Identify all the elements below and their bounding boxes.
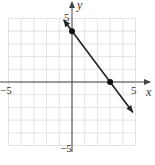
point-x-intercept bbox=[107, 79, 113, 85]
y-min-tick-label: −5 bbox=[60, 143, 72, 154]
x-axis-label: x bbox=[146, 86, 151, 98]
x-max-tick-label: 5 bbox=[131, 85, 137, 96]
coordinate-plane bbox=[0, 0, 155, 165]
y-axis-label: y bbox=[77, 0, 82, 11]
y-max-tick-label: 5 bbox=[64, 12, 70, 23]
y-axis-arrow-icon bbox=[69, 1, 75, 8]
x-min-tick-label: −5 bbox=[0, 85, 12, 96]
point-y-intercept bbox=[69, 28, 75, 34]
